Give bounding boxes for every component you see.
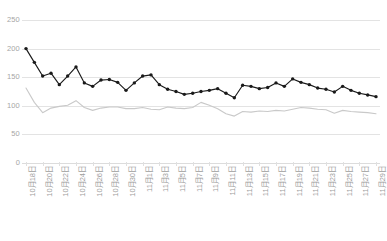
x-axis-tick-mark	[26, 162, 27, 166]
data-point	[74, 65, 77, 68]
x-axis-tick-label: 11月9日	[212, 166, 220, 192]
plot-area	[22, 20, 380, 163]
data-point	[266, 86, 269, 89]
x-axis-tick-mark	[59, 162, 60, 166]
x-axis-tick-mark	[343, 162, 344, 166]
data-point	[124, 89, 127, 92]
x-axis-tick-label: 11月13日	[246, 166, 254, 196]
data-point	[58, 83, 61, 86]
x-axis-tick-label: 11月19日	[296, 166, 304, 196]
data-point	[316, 86, 319, 89]
x-axis-tick-label: 11月21日	[312, 166, 320, 196]
x-axis-tick-mark	[93, 162, 94, 166]
data-point	[374, 95, 377, 98]
data-point	[258, 87, 261, 90]
x-axis-tick-label: 10月18日	[29, 166, 37, 197]
data-point	[141, 74, 144, 77]
data-point	[358, 92, 361, 95]
x-axis-tick-label: 11月5日	[179, 166, 187, 192]
x-axis-tick-label: 11月11日	[229, 166, 237, 196]
x-axis-tick-label: 11月25日	[346, 166, 354, 196]
data-point	[199, 90, 202, 93]
x-axis-tick-mark	[376, 162, 377, 166]
data-point	[299, 81, 302, 84]
data-point	[366, 93, 369, 96]
data-point	[91, 85, 94, 88]
x-axis-tick-mark	[276, 162, 277, 166]
data-point	[116, 81, 119, 84]
data-point	[183, 93, 186, 96]
x-axis-tick-label: 10月30日	[129, 166, 137, 197]
data-point	[208, 89, 211, 92]
data-point	[283, 85, 286, 88]
data-point	[33, 61, 36, 64]
data-point	[108, 78, 111, 81]
x-axis-tick-label: 10月26日	[96, 166, 104, 197]
x-axis-tick-label: 11月23日	[329, 166, 337, 196]
data-point	[191, 92, 194, 95]
data-point	[149, 73, 152, 76]
x-axis-tick-mark	[76, 162, 77, 166]
data-point	[249, 85, 252, 88]
y-axis-tick-label: 150	[0, 73, 20, 81]
data-point	[333, 90, 336, 93]
x-axis-tick-label: 10月20日	[46, 166, 54, 197]
x-axis-tick-mark	[359, 162, 360, 166]
data-point	[233, 96, 236, 99]
data-point	[83, 81, 86, 84]
x-axis-tick-mark	[193, 162, 194, 166]
y-axis-tick-label: 0	[0, 159, 20, 167]
data-point	[133, 81, 136, 84]
y-axis-labels: 250200150100500	[0, 20, 20, 163]
x-axis-tick-label: 11月17日	[279, 166, 287, 196]
data-point	[24, 47, 27, 50]
x-axis-tick-label: 10月24日	[79, 166, 87, 197]
y-axis-tick-label: 200	[0, 45, 20, 53]
data-point	[324, 88, 327, 91]
data-point	[291, 77, 294, 80]
data-point	[274, 81, 277, 84]
x-axis-tick-mark	[109, 162, 110, 166]
x-axis-tick-label: 11月1日	[146, 166, 154, 192]
y-axis-tick-label: 50	[0, 131, 20, 139]
data-point	[166, 88, 169, 91]
x-axis-tick-mark	[259, 162, 260, 166]
y-axis-tick-label: 100	[0, 102, 20, 110]
x-axis-tick-mark	[43, 162, 44, 166]
series-layer	[22, 20, 380, 163]
data-point	[341, 85, 344, 88]
data-point	[216, 87, 219, 90]
data-point	[224, 92, 227, 95]
data-point	[49, 71, 52, 74]
data-point	[41, 74, 44, 77]
data-point	[241, 84, 244, 87]
x-axis-tick-mark	[226, 162, 227, 166]
x-axis-tick-mark	[243, 162, 244, 166]
x-axis-tick-mark	[159, 162, 160, 166]
x-axis-labels: 10月18日10月20日10月22日10月24日10月26日10月28日10月3…	[22, 166, 380, 240]
data-point	[308, 83, 311, 86]
x-axis-tick-mark	[176, 162, 177, 166]
data-point	[158, 83, 161, 86]
x-axis-tick-label: 11月7日	[196, 166, 204, 192]
x-axis-tick-label: 10月22日	[62, 166, 70, 197]
data-point	[174, 90, 177, 93]
data-point	[99, 78, 102, 81]
x-axis-tick-mark	[126, 162, 127, 166]
x-axis-tick-label: 10月28日	[112, 166, 120, 197]
x-axis-tick-label: 11月27日	[362, 166, 370, 196]
x-axis-tick-label: 11月15日	[262, 166, 270, 196]
x-axis-tick-mark	[293, 162, 294, 166]
data-point	[349, 89, 352, 92]
x-axis-tick-mark	[309, 162, 310, 166]
y-axis-tick-label: 250	[0, 16, 20, 24]
x-axis-tick-mark	[143, 162, 144, 166]
x-axis-tick-label: 11月3日	[162, 166, 170, 192]
x-axis-tick-mark	[209, 162, 210, 166]
data-point	[66, 74, 69, 77]
x-axis-tick-mark	[326, 162, 327, 166]
x-axis-tick-label: 11月29日	[379, 166, 387, 196]
